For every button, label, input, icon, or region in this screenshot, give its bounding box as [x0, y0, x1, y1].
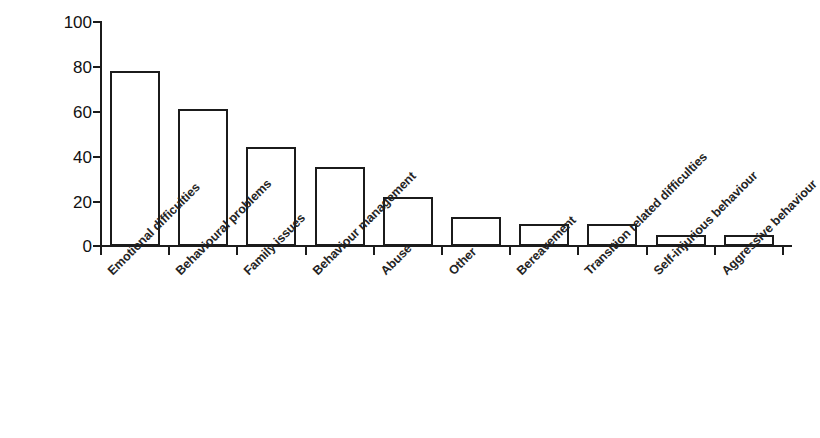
x-tick-mark-bereavement — [509, 247, 511, 255]
y-tick-label-60: 60 — [46, 104, 92, 121]
x-tick-mark-self-injurious-behaviour — [646, 247, 648, 255]
x-tick-mark-transition-related-difficulties — [577, 247, 579, 255]
x-tick-mark-aggressive-behaviour — [714, 247, 716, 255]
x-tick-mark-end — [782, 247, 784, 255]
y-tick-label-100: 100 — [46, 14, 92, 31]
x-axis-label-transition-related-difficulties: Transition related difficulties — [582, 150, 710, 278]
y-axis-line — [100, 21, 102, 247]
y-tick-label-0: 0 — [46, 238, 92, 255]
y-tick-label-40: 40 — [46, 149, 92, 166]
x-tick-mark-behaviour-management — [305, 247, 307, 255]
x-tick-mark-abuse — [373, 247, 375, 255]
y-tick-label-80: 80 — [46, 59, 92, 76]
x-axis-label-other: Other — [446, 245, 479, 278]
x-tick-mark-emotional-difficulties — [100, 247, 102, 255]
x-tick-mark-behavioural-problems — [168, 247, 170, 255]
bar-other — [451, 217, 501, 246]
y-tick-label-20: 20 — [46, 194, 92, 211]
x-tick-mark-family-issues — [236, 247, 238, 255]
x-tick-mark-other — [441, 247, 443, 255]
